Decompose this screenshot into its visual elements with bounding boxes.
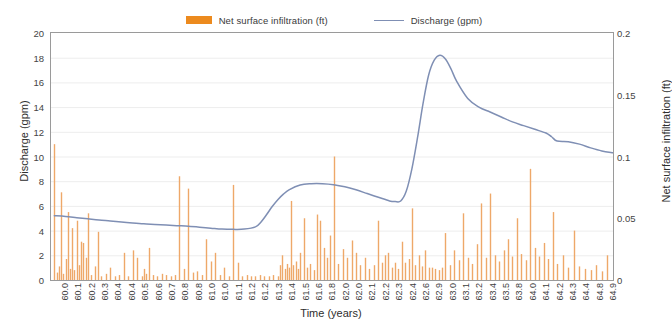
- discharge-line: [54, 55, 613, 229]
- x-axis-tick: 61.0: [220, 283, 230, 301]
- y-axis-left-tick: 12: [2, 126, 48, 137]
- x-axis-tick: 60.4: [113, 283, 123, 301]
- x-axis-tick: 60.8: [194, 283, 204, 301]
- x-axis-tick: 61.3: [274, 283, 284, 301]
- x-axis-tick: 61.0: [207, 283, 217, 301]
- y-axis-left-tick: 16: [2, 77, 48, 88]
- y-axis-left-tick: 0: [2, 275, 48, 286]
- x-axis-tick: 62.2: [381, 283, 391, 301]
- x-axis-tick: 62.0: [354, 283, 364, 301]
- y-axis-left-tick: 2: [2, 250, 48, 261]
- y-axis-left-tick: 4: [2, 225, 48, 236]
- x-axis-tick: 64.1: [541, 283, 551, 301]
- x-axis-tick: 60.1: [73, 283, 83, 301]
- x-axis-tick: 60.0: [60, 283, 70, 301]
- x-axis-tick: 63.1: [461, 283, 471, 301]
- x-axis-tick: 64.4: [581, 283, 591, 301]
- x-axis-tick: 62.3: [394, 283, 404, 301]
- y-axis-right-tick: 0.1: [614, 151, 658, 162]
- line-swatch-icon: [374, 20, 404, 21]
- x-axis-tick: 64.9: [608, 283, 618, 301]
- y-axis-left-tick: 10: [2, 151, 48, 162]
- x-axis-tick: 61.2: [247, 283, 257, 301]
- plot-area: [50, 32, 614, 281]
- x-axis-tick: 61.2: [260, 283, 270, 301]
- x-axis-tick: 61.8: [327, 283, 337, 301]
- x-axis-tick: 63.5: [501, 283, 511, 301]
- legend-label-infiltration: Net surface infiltration (ft): [219, 15, 328, 26]
- y-axis-left-tick: 6: [2, 200, 48, 211]
- x-axis-tick: 61.5: [301, 283, 311, 301]
- y-axis-right-tick: 0.15: [614, 89, 658, 100]
- x-axis-tick: 61.6: [314, 283, 324, 301]
- y-axis-left-tick: 18: [2, 52, 48, 63]
- y-axis-right-ticks: 00.050.10.150.2: [614, 32, 660, 280]
- x-axis-tick: 62.6: [421, 283, 431, 301]
- x-axis-tick: 64.0: [528, 283, 538, 301]
- gridlines: [51, 58, 613, 256]
- y-axis-right-title: Net surface infiltration (ft): [660, 61, 672, 221]
- y-axis-left-tick: 8: [2, 176, 48, 187]
- x-axis-tick: 62.1: [367, 283, 377, 301]
- x-axis-tick: 63.4: [488, 283, 498, 301]
- legend-item-discharge: Discharge (gpm): [374, 15, 483, 26]
- y-axis-left-tick: 14: [2, 102, 48, 113]
- x-axis-ticks: 60.060.160.260.360.460.460.560.660.760.8…: [50, 281, 613, 307]
- x-axis-tick: 63.8: [514, 283, 524, 301]
- x-axis-tick: 60.5: [140, 283, 150, 301]
- x-axis-tick: 61.4: [287, 283, 297, 301]
- bar-swatch-icon: [186, 16, 212, 24]
- plot-svg: [51, 33, 613, 280]
- x-axis-tick: 62.4: [408, 283, 418, 301]
- x-axis-tick: 62.0: [341, 283, 351, 301]
- x-axis-tick: 61.1: [234, 283, 244, 301]
- x-axis-tick: 63.0: [448, 283, 458, 301]
- y-axis-left-tick: 20: [2, 28, 48, 39]
- y-axis-left-ticks: 02468101214161820: [0, 32, 48, 280]
- x-axis-tick: 64.3: [568, 283, 578, 301]
- x-axis-tick: 60.7: [167, 283, 177, 301]
- x-axis-tick: 60.8: [180, 283, 190, 301]
- x-axis-tick: 60.2: [87, 283, 97, 301]
- y-axis-right-tick: 0.05: [614, 213, 658, 224]
- x-axis-tick: 60.6: [154, 283, 164, 301]
- chart-legend: Net surface infiltration (ft) Discharge …: [0, 10, 668, 30]
- legend-item-infiltration: Net surface infiltration (ft): [186, 15, 328, 26]
- legend-label-discharge: Discharge (gpm): [411, 15, 483, 26]
- x-axis-tick: 60.4: [127, 283, 137, 301]
- x-axis-title: Time (years): [50, 307, 612, 319]
- x-axis-tick: 64.8: [595, 283, 605, 301]
- x-axis-tick: 63.2: [474, 283, 484, 301]
- infiltration-bars: [55, 144, 608, 280]
- y-axis-right-tick: 0.2: [614, 28, 658, 39]
- x-axis-tick: 60.3: [100, 283, 110, 301]
- x-axis-tick: 62.9: [434, 283, 444, 301]
- y-axis-right-tick: 0: [614, 275, 658, 286]
- x-axis-tick: 64.2: [555, 283, 565, 301]
